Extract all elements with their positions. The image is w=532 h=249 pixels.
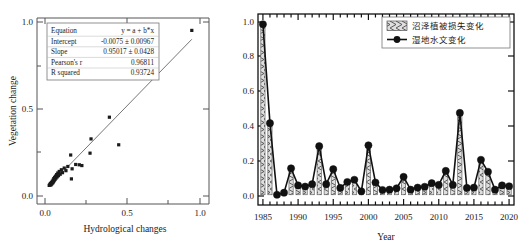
line-marker (407, 186, 414, 193)
scatter-ytick-0: 0.0 (22, 191, 34, 201)
scatter-xlabel: Hydrological changes (83, 224, 166, 234)
line-marker (393, 185, 400, 192)
scatter-ylabel: Vegetation change (8, 76, 18, 146)
scatter-point (89, 137, 92, 140)
bar-series-group (261, 24, 511, 195)
scatter-point (66, 165, 69, 168)
line-marker (470, 184, 477, 191)
ts-ytick-0: 0.0 (243, 191, 255, 201)
legend-label-vegetation-loss: 沼泽植被损失变化 (412, 21, 484, 31)
scatter-point (71, 167, 74, 170)
ts-xticklabel-6: 2015 (465, 212, 484, 222)
line-marker (330, 166, 337, 173)
line-marker (456, 109, 463, 116)
ts-ytick-2: 0.4 (243, 121, 255, 131)
scatter-ytick-2: 1.0 (22, 17, 34, 27)
scatter-point (61, 171, 64, 174)
line-marker (505, 183, 512, 190)
legend-label-hydrology: 湿地水文变化 (412, 35, 466, 45)
scatter-panel: 0.0 0.5 1.0 0.0 0.5 1.0 Hydrological cha… (0, 0, 228, 249)
scatter-point (60, 168, 63, 171)
line-marker (358, 188, 365, 195)
line-marker (302, 183, 309, 190)
scatter-point (88, 152, 91, 155)
timeseries-legend: 沼泽植被损失变化 湿地水文变化 (382, 17, 510, 48)
line-marker (337, 184, 344, 191)
line-marker (498, 182, 505, 189)
ts-xticklabel-3: 2000 (359, 212, 378, 222)
line-marker (309, 181, 316, 188)
scatter-xtick-0: 0.0 (39, 208, 51, 218)
line-marker (435, 181, 442, 188)
line-marker (463, 184, 470, 191)
ts-xticklabel-7: 2020 (500, 212, 518, 222)
line-marker (428, 180, 435, 187)
scatter-point (64, 169, 67, 172)
ts-xticklabel-0: 1985 (254, 212, 272, 222)
timeseries-x-ticklabels: 19851990199520002005201020152020 (254, 212, 519, 222)
line-marker (386, 186, 393, 193)
ts-xticklabel-2: 1995 (324, 212, 343, 222)
scatter-point (190, 29, 193, 32)
scatter-point (74, 163, 77, 166)
line-marker (280, 189, 287, 196)
stat-label-2: Slope (51, 48, 67, 56)
ts-xlabel: Year (377, 232, 395, 242)
line-marker (266, 120, 273, 127)
scatter-point (108, 116, 111, 119)
scatter-svg: 0.0 0.5 1.0 0.0 0.5 1.0 Hydrological cha… (0, 0, 228, 249)
line-marker (484, 168, 491, 175)
stat-value-0: y = a + b*x (121, 27, 154, 35)
legend-swatch-dot (394, 36, 401, 43)
stat-label-4: R squared (51, 69, 80, 77)
line-marker (442, 167, 449, 174)
line-marker (344, 178, 351, 185)
ts-ytick-1: 0.2 (243, 156, 254, 166)
scatter-xtick-1: 0.5 (121, 208, 133, 218)
line-marker (323, 181, 330, 188)
ts-ytick-3: 0.6 (243, 86, 255, 96)
ts-xticklabel-5: 2010 (430, 212, 449, 222)
line-marker (294, 182, 301, 189)
stat-label-3: Pearson's r (51, 59, 83, 67)
timeseries-svg: 0.0 0.2 0.4 0.6 0.8 1.0 1985199019952000… (228, 0, 532, 249)
stat-value-2: 0.95017 ± 0.0428 (103, 48, 154, 56)
ts-xticklabel-4: 2005 (395, 212, 414, 222)
scatter-point (70, 177, 73, 180)
line-marker (477, 156, 484, 163)
line-marker (414, 184, 421, 191)
line-marker (287, 165, 294, 172)
ts-ytick-4: 0.8 (243, 51, 255, 61)
line-marker (379, 186, 386, 193)
line-marker (491, 186, 498, 193)
stat-value-3: 0.96811 (131, 59, 154, 67)
scatter-xtick-2: 1.0 (194, 208, 206, 218)
scatter-point (80, 164, 83, 167)
stat-value-1: -0.0075 ± 0.00967 (101, 38, 154, 46)
line-marker (316, 143, 323, 150)
legend-swatch-hatched (387, 21, 407, 31)
line-marker (273, 191, 280, 198)
regression-stats-box: Equationy = a + b*xIntercept-0.0075 ± 0.… (47, 23, 159, 80)
line-marker (351, 176, 358, 183)
ts-xticklabel-1: 1990 (289, 212, 308, 222)
line-marker (365, 142, 372, 149)
stat-label-1: Intercept (51, 38, 77, 46)
scatter-point (117, 143, 120, 146)
stat-label-0: Equation (51, 27, 77, 35)
scatter-ytick-1: 0.5 (22, 104, 34, 114)
line-marker (421, 183, 428, 190)
stat-value-4: 0.93724 (131, 69, 155, 77)
ts-ytick-5: 1.0 (243, 17, 255, 27)
figure-container: 0.0 0.5 1.0 0.0 0.5 1.0 Hydrological cha… (0, 0, 532, 249)
line-marker (372, 179, 379, 186)
line-marker (259, 21, 266, 28)
timeseries-panel: 0.0 0.2 0.4 0.6 0.8 1.0 1985199019952000… (228, 0, 532, 249)
line-marker (400, 173, 407, 180)
scatter-point (69, 153, 72, 156)
line-series (263, 24, 509, 195)
line-marker (449, 181, 456, 188)
